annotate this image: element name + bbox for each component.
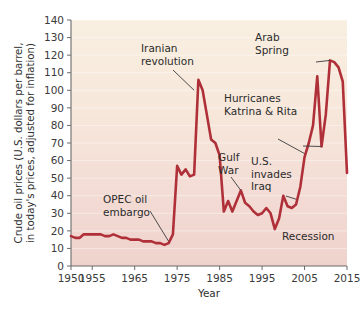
- y-tick-label: 50: [51, 172, 64, 184]
- y-tick-label: 60: [51, 154, 64, 166]
- chart-svg: 0102030405060708090100110120130140 19501…: [0, 0, 363, 314]
- annotation-label: Iranian: [141, 42, 178, 54]
- x-tick-label: 1955: [79, 272, 106, 284]
- y-tick-label: 120: [44, 49, 64, 61]
- y-axis-title-line2: in today's prices, adjusted for inflatio…: [25, 43, 36, 243]
- y-axis-title-line1: Crude oil prices (U.S. dollars per barre…: [13, 43, 24, 244]
- x-tick-label: 1975: [164, 272, 191, 284]
- y-tick-label: 140: [44, 14, 64, 26]
- annotation-label: Iraq: [251, 180, 272, 192]
- annotation-label: Gulf: [218, 151, 240, 163]
- y-tick-label: 30: [51, 207, 64, 219]
- x-tick-label: 2005: [291, 272, 318, 284]
- annotation-label: Hurricanes: [224, 92, 281, 104]
- y-tick-label: 130: [44, 31, 64, 43]
- annotation-label: revolution: [141, 55, 194, 67]
- annotation-label: embargo: [103, 206, 150, 218]
- x-tick-label: 1965: [121, 272, 148, 284]
- x-tick-label: 2015: [334, 272, 361, 284]
- y-tick-label: 80: [51, 119, 64, 131]
- y-tick-label: 100: [44, 84, 64, 96]
- y-tick-label: 70: [51, 137, 64, 149]
- annotation-label: War: [218, 164, 239, 176]
- annotation-label: Spring: [255, 44, 289, 56]
- x-axis-title: Year: [197, 287, 221, 299]
- annotation-label: U.S.: [251, 155, 272, 167]
- annotation-label: OPEC oil: [103, 193, 147, 205]
- annotation-label: Arab: [255, 31, 280, 43]
- annotation-leader-line: [303, 146, 322, 147]
- annotation-label: Recession: [282, 230, 334, 242]
- y-tick-label: 10: [51, 242, 64, 254]
- y-tick-label: 0: [57, 260, 64, 272]
- y-tick-label: 20: [51, 225, 64, 237]
- y-tick-label: 110: [44, 66, 64, 78]
- x-tick-labels: 19501955196519751985199520052015: [58, 272, 361, 284]
- x-tick-label: 1995: [249, 272, 276, 284]
- x-tick-label: 1985: [206, 272, 233, 284]
- annotation-label: invades: [251, 168, 292, 180]
- y-tick-label: 40: [51, 189, 64, 201]
- annotation-label: Katrina & Rita: [224, 105, 297, 117]
- oil-price-chart: 0102030405060708090100110120130140 19501…: [0, 0, 363, 314]
- y-tick-label: 90: [51, 102, 64, 114]
